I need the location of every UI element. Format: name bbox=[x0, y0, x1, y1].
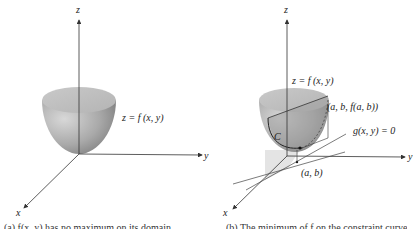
z-axis-label-b: z bbox=[283, 4, 288, 15]
caption-a: (a) f(x, y) has no maximum on its domain bbox=[4, 221, 171, 229]
figure: z y x z = f (x, y) z bbox=[0, 0, 419, 229]
base-point-label: (a, b) bbox=[301, 167, 323, 179]
x-axis-label-a: x bbox=[15, 207, 21, 218]
y-axis-a bbox=[79, 154, 202, 155]
x-axis-a bbox=[24, 154, 79, 208]
x-axis-label-b: x bbox=[222, 207, 228, 218]
shadow-region bbox=[265, 150, 300, 180]
surface-label-a: z = f (x, y) bbox=[121, 112, 164, 124]
surface-label-b: z = f (x, y) bbox=[291, 75, 334, 87]
max-point bbox=[298, 146, 301, 149]
panel-a: z y x z = f (x, y) bbox=[15, 4, 209, 218]
panel-b: z y x z = f (x, y) (a, b, f(a, b)) C g(x… bbox=[222, 4, 413, 218]
z-axis-label-a: z bbox=[75, 4, 80, 15]
surface-bowl-b bbox=[259, 88, 329, 152]
curve-label: C bbox=[274, 131, 281, 142]
y-axis-label-a: y bbox=[203, 150, 209, 161]
y-axis-label-b: y bbox=[407, 151, 413, 162]
caption-b: (b) The minimum of f on the constraint c… bbox=[226, 221, 407, 229]
constraint-label: g(x, y) = 0 bbox=[353, 125, 395, 137]
point-label: (a, b, f(a, b)) bbox=[327, 101, 379, 113]
